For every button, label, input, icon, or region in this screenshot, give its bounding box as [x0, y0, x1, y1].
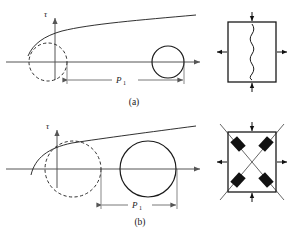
panel-a-dimension-subscript: 1: [123, 80, 126, 86]
panel-a-caption: (a): [129, 97, 140, 108]
panel-b-group: τ P 1 (b): [6, 121, 287, 228]
panel-b-dimension-subscript: 1: [139, 205, 142, 211]
panel-a-splitting-crack: [250, 24, 254, 80]
panel-b-dimension-label: P: [131, 200, 138, 210]
panel-a-failure-envelope: [28, 15, 196, 56]
panel-a-box-outline: [228, 22, 276, 82]
panel-b-caption: (b): [134, 217, 145, 228]
figure-container: τ P 1 (a): [0, 0, 293, 237]
panel-b-failure-envelope: [31, 126, 196, 175]
panel-a-group: τ P 1 (a): [6, 9, 287, 108]
panel-a-dimension-label: P: [115, 75, 122, 85]
panel-a-tau-label: τ: [44, 9, 48, 19]
panel-b-element-box: [217, 122, 287, 202]
panel-a-element-box: [217, 12, 287, 92]
panel-b-tau-label: τ: [46, 121, 50, 131]
mohr-circle-figure: τ P 1 (a): [0, 0, 293, 237]
